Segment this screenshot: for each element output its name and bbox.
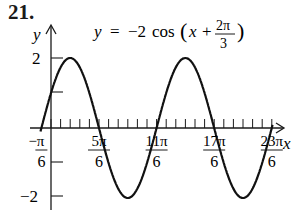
svg-text:6: 6 — [37, 153, 45, 170]
y-tick-label-neg2: −2 — [20, 187, 38, 206]
x-tick-labels: −π65π611π617π623π6 — [28, 133, 283, 170]
x-tick-label: 11π6 — [146, 133, 168, 170]
svg-text:−2: −2 — [128, 22, 146, 41]
svg-text:17π: 17π — [203, 133, 226, 149]
svg-text:6: 6 — [153, 153, 161, 170]
svg-text:x: x — [188, 22, 197, 41]
svg-text:cos: cos — [152, 22, 175, 41]
svg-text:): ) — [237, 18, 244, 43]
svg-text:6: 6 — [268, 153, 276, 170]
x-axis-label: x — [282, 134, 291, 153]
svg-text:5π: 5π — [91, 133, 107, 149]
x-tick-label: −π6 — [28, 133, 47, 170]
y-axis-label: y — [31, 25, 41, 44]
svg-text:+: + — [202, 22, 212, 41]
x-minor-ticks — [51, 119, 272, 128]
x-tick-label: 17π6 — [203, 133, 226, 170]
x-tick-label: 5π6 — [88, 133, 110, 170]
y-ticks — [51, 58, 63, 196]
svg-text:=: = — [110, 22, 120, 41]
svg-text:23π: 23π — [261, 133, 284, 149]
axes — [30, 25, 284, 210]
x-tick-label: 23π6 — [261, 133, 284, 170]
svg-text:11π: 11π — [146, 133, 168, 149]
svg-text:6: 6 — [210, 153, 218, 170]
svg-text:2π: 2π — [216, 18, 230, 33]
graph: y x 2 −2 y = −2 cos ( x + 2π 3 ) −π65π61… — [0, 0, 296, 220]
svg-text:y: y — [92, 22, 102, 41]
y-tick-label-2: 2 — [32, 49, 41, 68]
svg-text:6: 6 — [95, 153, 103, 170]
svg-text:−π: −π — [28, 133, 44, 149]
equation: y = −2 cos ( x + 2π 3 ) — [92, 18, 244, 51]
svg-text:(: ( — [180, 18, 187, 43]
svg-text:3: 3 — [220, 36, 227, 51]
